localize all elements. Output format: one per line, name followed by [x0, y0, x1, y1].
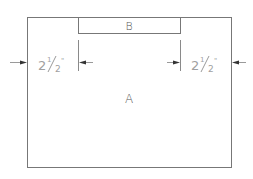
label-b: B	[125, 20, 132, 33]
dimension-right-unit: "	[214, 57, 217, 65]
arrow-right-icon	[20, 61, 27, 65]
dimension-left-whole: 2	[38, 58, 46, 73]
dimension-left: 2 1 2 "	[10, 56, 93, 74]
dimension-right-whole: 2	[191, 58, 199, 73]
dimension-left-numerator: 1	[47, 56, 51, 64]
label-a: A	[125, 92, 133, 106]
arrow-right-icon	[173, 61, 180, 65]
dimension-right-denominator: 2	[208, 64, 214, 74]
dimension-right: 2 1 2 "	[167, 56, 246, 74]
arrow-left-icon	[232, 61, 239, 65]
technical-drawing: B A 2 1 2 " 2 1 2 "	[0, 0, 253, 179]
dimension-left-unit: "	[61, 57, 64, 65]
dimension-left-denominator: 2	[55, 64, 61, 74]
dimension-right-numerator: 1	[200, 56, 204, 64]
arrow-left-icon	[79, 61, 86, 65]
